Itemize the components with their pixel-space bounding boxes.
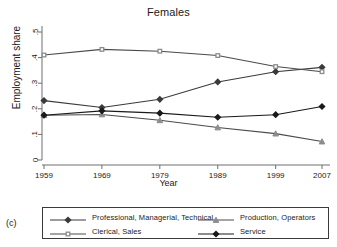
series-line	[44, 67, 322, 107]
data-point-marker	[213, 217, 219, 222]
legend-entry: Professional, Managerial, Technical	[49, 211, 213, 224]
plot-area: 0.1.2.3.4.5195919691979198919992007	[0, 0, 337, 200]
series-production	[41, 112, 325, 144]
data-point-marker	[157, 97, 162, 102]
series-line	[44, 114, 322, 141]
chart-figure: Females Employment share 0.1.2.3.4.51959…	[0, 0, 337, 247]
legend-entry: Service	[197, 225, 266, 238]
y-tick-label: .2	[31, 105, 40, 112]
y-tick-label: 0	[31, 157, 40, 162]
series-professional	[41, 65, 324, 110]
data-point-marker	[319, 104, 324, 109]
legend-marker-triangle-icon	[197, 212, 235, 224]
data-point-marker	[273, 131, 279, 136]
axes	[38, 26, 330, 169]
data-point-marker	[215, 79, 220, 84]
series-lines	[41, 48, 325, 144]
legend-label: Service	[235, 227, 266, 236]
data-point-marker	[320, 70, 324, 74]
data-point-marker	[319, 65, 324, 70]
data-point-marker	[274, 65, 278, 69]
data-point-marker	[215, 115, 220, 120]
legend: Professional, Managerial, TechnicalCleri…	[42, 207, 329, 239]
figure-panel-letter: (c)	[6, 218, 17, 228]
data-point-marker	[65, 217, 70, 222]
data-point-marker	[213, 231, 218, 236]
legend-entry: Production, Operators	[197, 211, 315, 224]
data-point-marker	[42, 53, 46, 57]
data-point-marker	[319, 139, 325, 144]
legend-marker-filled-diamond-icon	[49, 212, 87, 224]
legend-label: Production, Operators	[235, 213, 315, 222]
y-tick-label: .1	[31, 131, 40, 138]
data-point-marker	[273, 69, 278, 74]
legend-marker-open-square-icon	[49, 226, 87, 238]
series-service	[41, 104, 324, 120]
data-point-marker	[100, 48, 104, 52]
y-tick-label: .3	[31, 79, 40, 86]
y-tick-label: .4	[31, 54, 40, 61]
data-point-marker	[66, 232, 70, 236]
y-tick-label: .5	[31, 28, 40, 35]
data-point-marker	[273, 112, 278, 117]
series-line	[44, 106, 322, 117]
data-point-marker	[157, 118, 163, 123]
legend-label: Professional, Managerial, Technical	[87, 213, 213, 222]
legend-entry: Clerical, Sales	[49, 225, 141, 238]
series-clerical	[42, 48, 324, 74]
data-point-marker	[215, 125, 221, 130]
legend-label: Clerical, Sales	[87, 227, 141, 236]
data-point-marker	[158, 49, 162, 53]
data-point-marker	[157, 111, 162, 116]
data-point-marker	[216, 54, 220, 58]
legend-marker-filled-diamond-icon	[197, 226, 235, 238]
x-axis-label: Year	[0, 178, 337, 188]
series-line	[44, 49, 322, 71]
